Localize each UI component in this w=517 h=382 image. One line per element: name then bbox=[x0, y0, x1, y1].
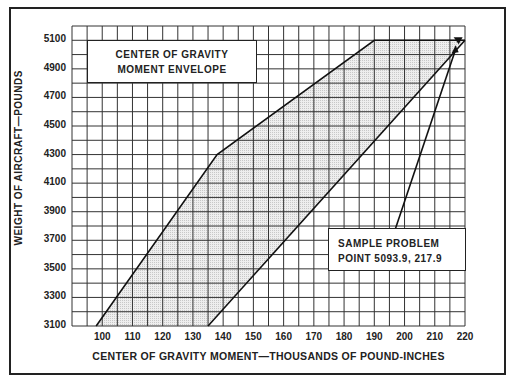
y-tick-label: 4500 bbox=[32, 119, 66, 130]
x-tick-label: 100 bbox=[87, 331, 117, 342]
chart-title-box: CENTER OF GRAVITY MOMENT ENVELOPE bbox=[87, 40, 257, 83]
x-tick-label: 160 bbox=[269, 331, 299, 342]
x-tick-label: 170 bbox=[299, 331, 329, 342]
y-axis-label: WEIGHT OF AIRCRAFT—POUNDS bbox=[13, 106, 24, 246]
x-tick-label: 120 bbox=[148, 331, 178, 342]
y-tick-label: 3700 bbox=[32, 233, 66, 244]
y-tick-label: 4700 bbox=[32, 90, 66, 101]
sample-line2: POINT 5093.9, 217.9 bbox=[338, 251, 465, 266]
y-tick-label: 4100 bbox=[32, 176, 66, 187]
y-tick-label: 3100 bbox=[32, 319, 66, 330]
x-tick-label: 210 bbox=[420, 331, 450, 342]
y-tick-label: 3300 bbox=[32, 290, 66, 301]
sample-problem-box: SAMPLE PROBLEM POINT 5093.9, 217.9 bbox=[328, 228, 466, 271]
chart-plot bbox=[0, 0, 517, 382]
x-tick-label: 220 bbox=[450, 331, 480, 342]
y-tick-label: 4300 bbox=[32, 148, 66, 159]
x-tick-label: 190 bbox=[359, 331, 389, 342]
x-axis-label: CENTER OF GRAVITY MOMENT—THOUSANDS OF PO… bbox=[72, 350, 465, 362]
x-tick-label: 140 bbox=[208, 331, 238, 342]
sample-line1: SAMPLE PROBLEM bbox=[338, 236, 465, 251]
x-tick-label: 180 bbox=[329, 331, 359, 342]
chart-title-line1: CENTER OF GRAVITY bbox=[88, 47, 256, 62]
x-tick-label: 150 bbox=[238, 331, 268, 342]
x-tick-label: 200 bbox=[390, 331, 420, 342]
y-tick-label: 3500 bbox=[32, 262, 66, 273]
y-tick-label: 4900 bbox=[32, 62, 66, 73]
y-tick-label: 5100 bbox=[32, 33, 66, 44]
y-tick-label: 3900 bbox=[32, 205, 66, 216]
x-tick-label: 130 bbox=[178, 331, 208, 342]
x-tick-label: 110 bbox=[117, 331, 147, 342]
chart-title-line2: MOMENT ENVELOPE bbox=[88, 62, 256, 77]
